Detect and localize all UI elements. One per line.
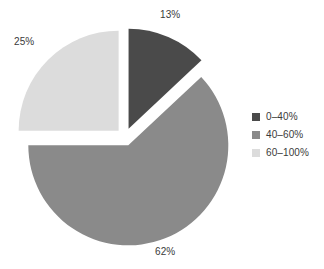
pie-slice-value-label-60-100: 25%: [14, 36, 34, 47]
chart-legend: 0–40% 40–60% 60–100%: [252, 111, 309, 158]
legend-item-0-40[interactable]: 0–40%: [252, 111, 309, 122]
legend-item-60-100[interactable]: 60–100%: [252, 147, 309, 158]
pie-chart-figure: 13% 62% 25% 0–40% 40–60% 60–100%: [0, 0, 324, 269]
pie-slices: [19, 29, 229, 246]
legend-label-60-100: 60–100%: [266, 147, 309, 158]
pie-slice-value-label-40-60: 62%: [155, 246, 175, 257]
legend-label-0-40: 0–40%: [266, 111, 298, 122]
legend-swatch-icon-0-40: [252, 113, 260, 121]
legend-item-40-60[interactable]: 40–60%: [252, 129, 309, 140]
legend-swatch-icon-40-60: [252, 131, 260, 139]
legend-swatch-icon-60-100: [252, 149, 260, 157]
legend-label-40-60: 40–60%: [266, 129, 303, 140]
pie-slice-value-label-0-40: 13%: [160, 9, 180, 20]
